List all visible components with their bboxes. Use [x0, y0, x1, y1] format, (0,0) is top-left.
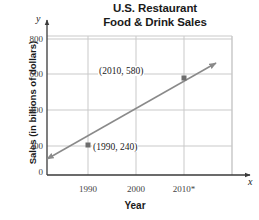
annotation-1990: (1990, 240) [92, 142, 138, 152]
chart-figure: U.S. Restaurant Food & Drink Sales Sales… [0, 0, 259, 220]
data-point-2010 [182, 76, 187, 81]
annotation-2010: (2010, 580) [98, 66, 144, 76]
vertical-gridlines [88, 36, 232, 175]
horizontal-gridlines [47, 39, 232, 146]
plot-area [0, 0, 259, 220]
data-point-1990 [86, 143, 91, 148]
